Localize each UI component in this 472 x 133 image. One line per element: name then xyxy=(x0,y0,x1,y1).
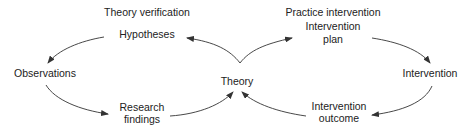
node-intervention-plan-line1: Intervention xyxy=(306,20,361,32)
node-hypotheses: Hypotheses xyxy=(119,28,174,40)
node-intervention-outcome-line1: Intervention xyxy=(312,100,367,112)
arrow-research-findings-to-theory xyxy=(170,92,233,116)
theory-practice-diagram: Theory verification Practice interventio… xyxy=(0,0,472,133)
node-research-findings-line1: Research xyxy=(120,101,165,113)
title-theory-verification: Theory verification xyxy=(104,6,190,18)
node-theory: Theory xyxy=(221,75,254,87)
node-observations: Observations xyxy=(14,67,76,79)
arrow-hypotheses-to-observations xyxy=(48,37,104,63)
arrow-intervention-to-intervention-outcome xyxy=(372,86,432,115)
node-intervention: Intervention xyxy=(403,67,458,79)
arrow-intervention-outcome-to-theory xyxy=(242,92,306,116)
node-intervention-plan-line2: plan xyxy=(323,33,343,45)
node-intervention-outcome-line2: outcome xyxy=(319,112,359,124)
arrow-observations-to-research-findings xyxy=(46,85,108,114)
node-research-findings-line2: findings xyxy=(124,113,160,125)
arrow-intervention-plan-to-intervention xyxy=(372,38,430,63)
arrow-theory-to-intervention-plan xyxy=(240,38,292,63)
arrow-theory-to-hypotheses xyxy=(187,38,240,63)
title-practice-intervention: Practice intervention xyxy=(285,6,380,18)
